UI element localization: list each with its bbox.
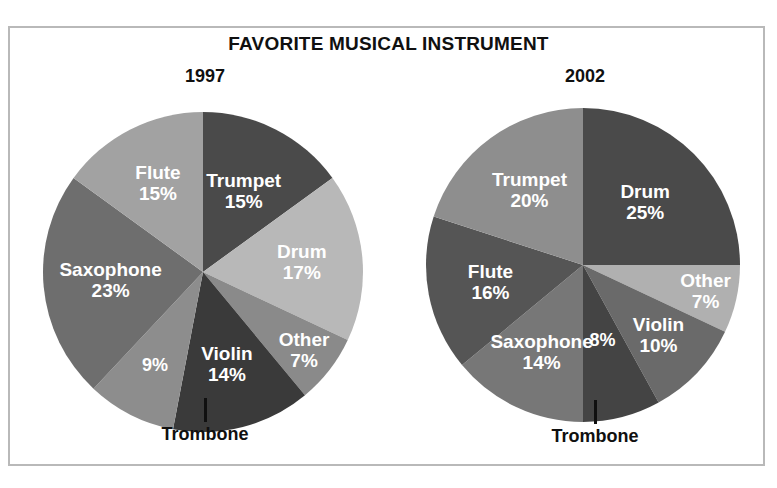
callout-leader-line: [204, 398, 207, 422]
trombone-callout-1997: Trombone: [130, 398, 280, 445]
panel-title-2002: 2002: [525, 66, 645, 87]
slice-label-violin: Violin10%: [633, 314, 684, 356]
pie-chart-2002: Drum25%Other7%Violin10%8%Saxophone14%Flu…: [425, 107, 741, 423]
pie-slices-2002: Drum25%Other7%Violin10%8%Saxophone14%Flu…: [425, 107, 741, 423]
chart-figure: FAVORITE MUSICAL INSTRUMENT 1997 2002 Tr…: [0, 0, 777, 488]
pie-slices-1997: Trumpet15%Drum17%Other7%Violin14%9%Saxop…: [42, 111, 364, 433]
callout-label: Trombone: [520, 426, 670, 447]
callout-leader-line: [594, 400, 597, 424]
slice-label-trombone: 9%: [142, 355, 168, 375]
slice-label-drum: Drum17%: [277, 241, 327, 283]
callout-label: Trombone: [130, 424, 280, 445]
trombone-callout-2002: Trombone: [520, 400, 670, 447]
slice-label-drum: Drum25%: [620, 181, 670, 223]
pie-chart-1997: Trumpet15%Drum17%Other7%Violin14%9%Saxop…: [42, 111, 364, 433]
panel-title-1997: 1997: [145, 66, 265, 87]
slice-label-flute: Flute16%: [468, 261, 513, 303]
slice-label-flute: Flute15%: [135, 162, 180, 204]
page-title: FAVORITE MUSICAL INSTRUMENT: [0, 33, 777, 55]
slice-label-violin: Violin14%: [201, 343, 252, 385]
slice-label-trombone: 8%: [589, 330, 615, 350]
